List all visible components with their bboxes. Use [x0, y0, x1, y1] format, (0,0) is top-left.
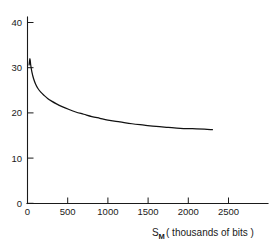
x-axis-title-units: ( thousands of bits ) — [166, 227, 254, 238]
y-axis-tick-labels: 40 30 20 10 0 — [11, 17, 22, 209]
y-tick-label-10: 10 — [11, 153, 22, 164]
x-tick-label-1000: 1000 — [97, 206, 118, 217]
y-tick-label-40: 40 — [11, 17, 22, 28]
axes-group — [27, 17, 268, 204]
x-tick-label-0: 0 — [25, 206, 30, 217]
x-tick-label-1500: 1500 — [138, 206, 159, 217]
x-tick-label-2000: 2000 — [178, 206, 199, 217]
x-axis-title-subscript: M — [159, 232, 165, 241]
x-axis-ticks — [28, 198, 229, 204]
chart-figure: 40 30 20 10 0 0 500 1000 1500 2000 2500 — [0, 0, 273, 245]
y-tick-label-20: 20 — [11, 107, 22, 118]
data-series-curve — [29, 59, 212, 130]
x-axis-title: S M ( thousands of bits ) — [152, 227, 254, 241]
y-axis-ticks — [28, 23, 34, 204]
y-tick-label-30: 30 — [11, 62, 22, 73]
x-tick-label-2500: 2500 — [218, 206, 239, 217]
x-tick-label-500: 500 — [60, 206, 76, 217]
y-tick-label-0: 0 — [17, 198, 22, 209]
x-axis-tick-labels: 0 500 1000 1500 2000 2500 — [25, 206, 239, 217]
chart-plot-area: 40 30 20 10 0 0 500 1000 1500 2000 2500 — [0, 0, 273, 245]
